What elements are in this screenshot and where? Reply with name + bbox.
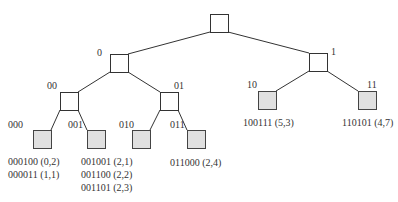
edge-n0-n01 [128,72,160,92]
trie-node-0 [111,55,129,73]
bucket-node-10 [259,92,277,110]
trie-node-root [211,15,229,33]
bucket-node-010 [133,131,151,149]
node-label: 00 [47,80,57,91]
node-label: 011 [170,119,185,130]
node-label: 001 [68,119,83,130]
bucket-entry: 011000 (2,4) [170,157,221,169]
node-label: 01 [174,80,184,91]
edge-n1-n11 [327,71,358,91]
edge-root-n0 [128,32,210,54]
bucket-entry: 001101 (2,3) [81,182,132,194]
bucket-entry: 000011 (1,1) [8,169,59,181]
edge-n1-n10 [276,71,309,91]
node-label: 1 [331,46,336,57]
bucket-node-11 [359,92,377,110]
trie-node-1 [310,54,328,72]
edge-root-n1 [228,32,309,53]
node-label: 11 [367,79,377,90]
node-label: 000 [8,119,23,130]
trie-node-01 [161,93,179,111]
node-label: 0 [97,47,102,58]
bucket-entries: 000100 (0,2)000011 (1,1)001001 (2,1)0011… [8,117,393,194]
bucket-entry: 000100 (0,2) [8,156,60,168]
trie-diagram: 0100010000010100111011 000100 (0,2)00001… [0,0,398,202]
node-label: 10 [247,79,257,90]
bucket-entry: 001100 (2,2) [81,169,132,181]
node-label: 010 [119,119,134,130]
bucket-entry: 001001 (2,1) [81,156,133,168]
bucket-entry: 100111 (5,3) [243,117,294,129]
edge-n00-n000 [51,110,60,130]
edge-n01-n010 [150,110,160,130]
bucket-node-000 [34,131,52,149]
edge-n0-n00 [78,72,110,92]
bucket-node-001 [88,131,106,149]
bucket-entry: 110101 (4,7) [342,117,393,129]
trie-node-00 [61,93,79,111]
tree-nodes [34,15,377,149]
bucket-node-011 [188,131,206,149]
